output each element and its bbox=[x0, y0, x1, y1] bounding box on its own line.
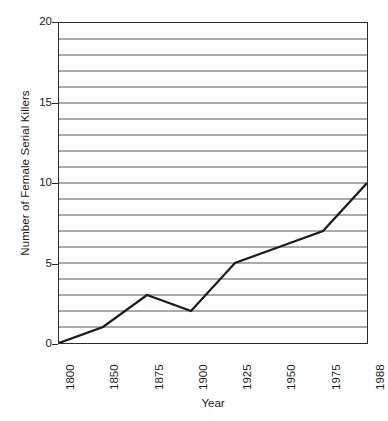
x-tick-label-text: 1975 bbox=[330, 364, 342, 390]
x-tick-label-text: 1900 bbox=[197, 364, 209, 390]
y-tick-label: 0 bbox=[26, 338, 52, 350]
series-polyline bbox=[59, 183, 367, 343]
x-tick-label-text: 1850 bbox=[108, 364, 120, 390]
x-tick-label-text: 1925 bbox=[241, 364, 253, 390]
x-tick-label-text: 1950 bbox=[285, 364, 297, 390]
x-axis-title: Year bbox=[58, 396, 368, 410]
plot-area bbox=[58, 22, 368, 344]
y-axis-tick-labels: 05101520 bbox=[26, 0, 52, 421]
y-tick-mark bbox=[52, 103, 58, 104]
data-series-line bbox=[59, 23, 367, 343]
y-tick-mark bbox=[52, 264, 58, 265]
line-chart-figure: Number of Female Serial Killers 05101520… bbox=[0, 0, 388, 421]
y-tick-label: 20 bbox=[26, 16, 52, 28]
x-axis-tick-labels: 18001850187519001925195019751988 bbox=[58, 344, 368, 396]
y-tick-mark bbox=[52, 183, 58, 184]
y-tick-label: 15 bbox=[26, 97, 52, 109]
y-tick-label: 10 bbox=[26, 177, 52, 189]
x-tick-label-text: 1875 bbox=[153, 364, 165, 390]
y-tick-mark bbox=[52, 344, 58, 345]
x-tick-label-text: 1800 bbox=[64, 364, 76, 390]
y-tick-mark bbox=[52, 22, 58, 23]
x-tick-label-text: 1988 bbox=[374, 364, 386, 390]
y-tick-label: 5 bbox=[26, 258, 52, 270]
